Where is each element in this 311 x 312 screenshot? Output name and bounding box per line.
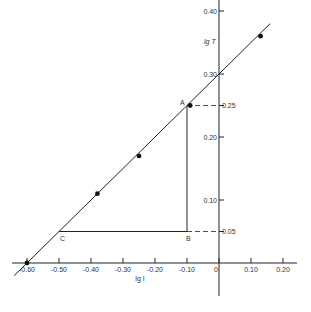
x-tick-label: -0.10 bbox=[179, 266, 195, 273]
x-tick-label: -0.50 bbox=[51, 266, 67, 273]
label-B: B bbox=[186, 235, 191, 242]
y-tick-label: 0.40 bbox=[203, 8, 217, 15]
x-tick-label: 0.20 bbox=[276, 266, 290, 273]
x-tick-label: -0.30 bbox=[115, 266, 131, 273]
label-C: C bbox=[60, 235, 65, 242]
fit-line bbox=[14, 24, 270, 276]
x-tick-label: -0.20 bbox=[147, 266, 163, 273]
data-point bbox=[95, 191, 100, 196]
x-tick-label: -0.40 bbox=[83, 266, 99, 273]
slope-triangle bbox=[59, 106, 219, 232]
y-tick-label: 0.30 bbox=[203, 71, 217, 78]
y-axis-label: lg T bbox=[204, 38, 216, 46]
y-tick-label: 0.05 bbox=[222, 228, 236, 235]
x-tick-label: 0.10 bbox=[244, 266, 258, 273]
data-point bbox=[25, 261, 30, 266]
data-point bbox=[188, 103, 193, 108]
data-point bbox=[258, 34, 263, 39]
fitted-line bbox=[14, 24, 270, 276]
x-tick-label: 0 bbox=[214, 266, 218, 273]
axes: -0.60-0.50-0.40-0.30-0.20-0.1000.100.200… bbox=[12, 0, 297, 296]
data-point bbox=[137, 154, 142, 159]
y-tick-label: 0.20 bbox=[203, 134, 217, 141]
label-A: A bbox=[180, 99, 185, 106]
chart-svg: -0.60-0.50-0.40-0.30-0.20-0.1000.100.200… bbox=[0, 0, 311, 312]
x-axis-label: lg I bbox=[135, 275, 144, 283]
labels: ABC bbox=[60, 99, 191, 242]
y-tick-label: 0.10 bbox=[203, 197, 217, 204]
x-tick-label: -0.60 bbox=[19, 266, 35, 273]
y-tick-label: 0.25 bbox=[222, 102, 236, 109]
